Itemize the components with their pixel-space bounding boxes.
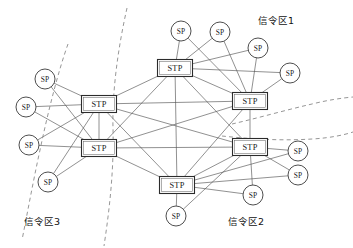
sp-node[interactable]: SP (35, 69, 55, 89)
signaling-link (186, 38, 213, 59)
stp-node-label: STP (169, 181, 184, 190)
signaling-link (35, 112, 84, 140)
sp-node[interactable]: SP (171, 21, 191, 41)
zone-label-zone-2: 信令区2 (228, 216, 264, 227)
sp-node-label: SP (294, 171, 303, 180)
signaling-link (193, 156, 233, 177)
sp-node[interactable]: SP (248, 38, 268, 58)
stp-node-label: STP (242, 143, 257, 152)
signaling-link (224, 41, 246, 92)
sp-node-label: SP (249, 191, 258, 200)
sp-node[interactable]: SP (166, 206, 186, 226)
signaling-link (56, 157, 86, 177)
signaling-link (117, 156, 160, 176)
signaling-link (36, 105, 82, 107)
sp-node[interactable]: SP (243, 185, 263, 205)
sp-node[interactable]: SP (210, 22, 230, 42)
stp-node[interactable]: STP (160, 177, 195, 194)
stp-node-label: STP (91, 144, 106, 153)
sp-node-label: SP (172, 212, 181, 221)
stp-node[interactable]: STP (233, 139, 268, 156)
signaling-link (265, 156, 290, 170)
stp-node[interactable]: STP (82, 140, 117, 157)
signaling-link (251, 58, 256, 93)
stp-node[interactable]: STP (158, 60, 193, 77)
signaling-link (51, 87, 92, 140)
zone-label-zone-3: 信令区3 (24, 216, 60, 227)
network-diagram-canvas: STPSTPSTPSTPSTPSTPSPSPSPSPSPSPSPSPSPSPSP… (0, 0, 353, 248)
sp-node-label: SP (254, 44, 263, 53)
node-layer: STPSTPSTPSTPSTPSTPSPSPSPSPSPSPSPSPSPSPSP… (16, 21, 308, 226)
sp-node-label: SP (286, 69, 295, 78)
signaling-link (262, 79, 282, 93)
sp-node[interactable]: SP (38, 172, 58, 192)
stp-node-label: STP (242, 97, 257, 106)
zone-label-zone-1: 信令区1 (258, 15, 294, 26)
network-diagram-svg: STPSTPSTPSTPSTPSTPSPSPSPSPSPSPSPSPSPSPSP… (0, 0, 353, 248)
sp-node[interactable]: SP (19, 135, 39, 155)
signaling-link (268, 148, 289, 150)
zone-boundary-curve (104, 8, 127, 246)
zone-boundary-layer (22, 8, 353, 246)
signaling-link (176, 41, 179, 60)
signaling-link (195, 187, 244, 193)
stp-node[interactable]: STP (82, 96, 117, 113)
sp-node[interactable]: SP (16, 97, 36, 117)
sp-node-label: SP (22, 103, 31, 112)
sp-node-label: SP (294, 147, 303, 156)
stp-node-label: STP (91, 100, 106, 109)
sp-node[interactable]: SP (280, 63, 300, 83)
signaling-link (39, 145, 82, 147)
signaling-link (117, 147, 233, 148)
sp-node-label: SP (41, 75, 50, 84)
stp-node[interactable]: STP (233, 93, 268, 110)
signaling-link (193, 76, 233, 94)
signaling-link (188, 38, 242, 92)
signaling-link (195, 154, 289, 180)
signaling-link (54, 83, 81, 96)
signaling-link (117, 101, 233, 103)
sp-node[interactable]: SP (288, 165, 308, 185)
sp-node[interactable]: SP (288, 141, 308, 161)
signaling-link (195, 176, 289, 184)
sp-node-label: SP (44, 178, 53, 187)
signaling-link (251, 156, 253, 186)
sp-node-label: SP (216, 28, 225, 37)
sp-node-label: SP (25, 141, 34, 150)
signaling-link (175, 77, 177, 177)
sp-node-label: SP (177, 27, 186, 36)
stp-node-label: STP (167, 64, 182, 73)
signaling-link (193, 50, 249, 63)
